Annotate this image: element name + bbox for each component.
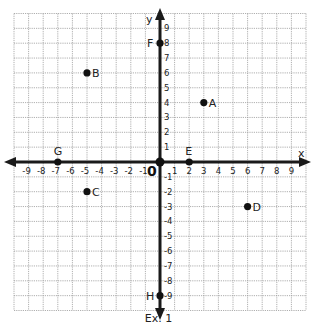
x-axis-label: x [298, 147, 305, 160]
coordinate-plane: xy-9-8-7-6-5-4-3-2-1123456789-9-8-7-6-5-… [0, 0, 317, 328]
y-tick-label: 5 [164, 83, 169, 93]
y-tick-label: 7 [164, 53, 169, 63]
point-c [83, 188, 90, 195]
x-tick-label: -5 [81, 166, 89, 176]
y-tick-label: -6 [164, 246, 172, 256]
x-tick-label: -8 [37, 166, 45, 176]
y-tick-label: -9 [164, 291, 172, 301]
point-label-b: B [92, 67, 100, 80]
x-tick-label: 4 [216, 166, 221, 176]
point-label-d: D [253, 201, 261, 214]
x-tick-label: 2 [186, 166, 191, 176]
point-d [244, 203, 251, 210]
x-tick-label: -7 [52, 166, 60, 176]
y-tick-label: -3 [164, 202, 172, 212]
x-tick-label: 5 [230, 166, 235, 176]
figure-caption: Ex. 1 [0, 312, 317, 325]
origin-label: 0 [147, 163, 157, 179]
y-axis-label: y [146, 13, 153, 26]
point-f [156, 40, 163, 47]
point-g [54, 158, 61, 165]
y-axis-up-arrow-icon [155, 8, 165, 20]
y-tick-label: 8 [164, 38, 169, 48]
y-tick-label: -2 [164, 187, 172, 197]
point-label-f: F [147, 37, 153, 50]
x-tick-label: 9 [289, 166, 294, 176]
x-tick-label: -9 [22, 166, 30, 176]
y-tick-label: -7 [164, 261, 172, 271]
x-tick-label: 1 [172, 166, 177, 176]
y-tick-label: 4 [164, 98, 169, 108]
x-tick-label: 8 [274, 166, 279, 176]
y-tick-label: 1 [164, 142, 169, 152]
x-tick-label: 7 [259, 166, 264, 176]
y-tick-label: -1 [164, 172, 172, 182]
x-tick-label: 3 [201, 166, 206, 176]
point-label-h: H [146, 290, 154, 303]
point-e [186, 158, 193, 165]
y-tick-label: 6 [164, 68, 169, 78]
y-tick-label: -5 [164, 231, 172, 241]
point-h [156, 292, 163, 299]
x-axis-left-arrow-icon [4, 157, 16, 167]
point-label-a: A [209, 97, 217, 110]
x-tick-label: -6 [66, 166, 74, 176]
y-tick-label: 3 [164, 112, 169, 122]
point-label-c: C [92, 186, 100, 199]
y-tick-label: -8 [164, 276, 172, 286]
x-tick-label: -4 [95, 166, 103, 176]
y-tick-label: 9 [164, 23, 169, 33]
point-b [83, 69, 90, 76]
point-label-e: E [185, 145, 192, 158]
y-tick-label: -4 [164, 216, 172, 226]
point-label-g: G [54, 145, 63, 158]
x-tick-label: -2 [125, 166, 133, 176]
point-a [200, 99, 207, 106]
x-tick-label: -3 [110, 166, 118, 176]
y-tick-label: 2 [164, 127, 169, 137]
origin-point [156, 158, 165, 167]
x-tick-label: 6 [245, 166, 250, 176]
